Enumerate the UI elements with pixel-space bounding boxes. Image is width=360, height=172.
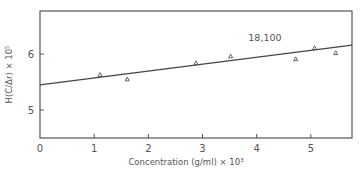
y-axis-label: H(C/Δr) × 10⁵	[4, 46, 14, 104]
triangle-marker	[98, 73, 102, 77]
triangle-marker	[334, 51, 338, 55]
x-axis-label: Concentration (g/ml) × 10³	[128, 157, 243, 167]
triangle-marker	[125, 77, 129, 81]
triangle-marker	[313, 46, 317, 50]
x-tick-label: 1	[91, 143, 97, 154]
chart: 01234556Concentration (g/ml) × 10³H(C/Δr…	[0, 0, 360, 172]
triangle-marker	[194, 61, 198, 65]
x-tick-label: 4	[253, 143, 259, 154]
x-tick-label: 3	[199, 143, 205, 154]
x-tick-label: 0	[37, 143, 43, 154]
y-tick-label: 5	[28, 105, 34, 116]
line-annotation: 18,100	[248, 32, 281, 43]
x-tick-label: 2	[145, 143, 151, 154]
triangle-marker	[294, 57, 298, 61]
plot-frame	[40, 11, 352, 138]
triangle-marker	[229, 54, 233, 58]
x-tick-label: 5	[308, 143, 314, 154]
y-tick-label: 6	[28, 49, 34, 60]
